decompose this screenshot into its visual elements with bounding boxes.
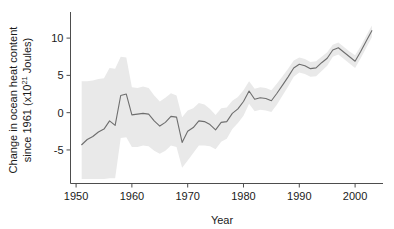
y-tick-label: 0 xyxy=(57,107,63,119)
x-axis-title: Year xyxy=(211,214,234,226)
x-tick-label: 2000 xyxy=(343,190,367,202)
y-tick-label: -5 xyxy=(54,144,64,156)
chart-canvas: -50510 195019601970198019902000 Year Cha… xyxy=(0,0,394,229)
y-axis-title-line2-pre: since 1961 (x10 xyxy=(21,85,33,163)
ocean-heat-content-chart: -50510 195019601970198019902000 Year Cha… xyxy=(0,0,394,229)
x-axis-ticks xyxy=(76,184,355,188)
x-tick-label: 1950 xyxy=(64,190,88,202)
y-axis-title-line2: since 1961 (x1021 Joules) xyxy=(20,38,33,163)
x-tick-label: 1970 xyxy=(175,190,199,202)
x-tick-label: 1990 xyxy=(287,190,311,202)
y-tick-label: 10 xyxy=(51,32,63,44)
x-tick-label: 1980 xyxy=(231,190,255,202)
uncertainty-band xyxy=(82,25,372,179)
x-axis-tick-labels: 195019601970198019902000 xyxy=(64,190,368,202)
y-tick-label: 5 xyxy=(57,69,63,81)
y-axis-title-exponent: 21 xyxy=(20,76,29,84)
y-axis-ticks xyxy=(67,38,71,150)
y-axis-title-line2-post: Joules) xyxy=(21,38,33,77)
x-tick-label: 1960 xyxy=(120,190,144,202)
y-axis-tick-labels: -50510 xyxy=(51,32,63,156)
y-axis-title: Change in ocean heat content since 1961 … xyxy=(7,27,33,174)
y-axis-title-line1: Change in ocean heat content xyxy=(7,27,19,174)
